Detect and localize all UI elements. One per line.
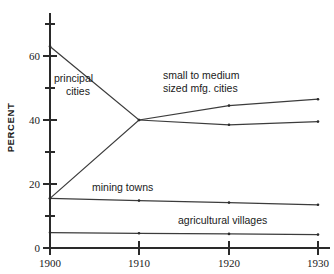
x-tick-label-1900: 1900 <box>26 258 74 269</box>
series-label-mfg-cities: small to medium sized mfg. cities <box>163 69 239 95</box>
y-tick-label-60: 60 <box>14 51 40 62</box>
series-label-principal-cities-line2: cities <box>54 85 90 98</box>
x-tick-label-1910: 1910 <box>115 258 163 269</box>
series-line-mining-towns <box>50 198 318 204</box>
series-label-principal-cities-line1: principal <box>54 72 93 84</box>
series-label-mfg-cities-line2: sized mfg. cities <box>163 82 238 94</box>
y-axis-title: PERCENT <box>5 96 16 160</box>
x-tick-label-1920: 1920 <box>205 258 253 269</box>
series-label-mining-towns: mining towns <box>92 181 153 194</box>
series-line-mfg-cities <box>50 99 318 198</box>
y-tick-label-20: 20 <box>14 179 40 190</box>
series-label-agricultural-villages: agricultural villages <box>178 214 267 227</box>
x-tick-label-1930: 1930 <box>294 258 334 269</box>
series-label-mfg-cities-line1: small to medium <box>163 69 239 81</box>
chart-plot-area <box>0 0 334 274</box>
y-tick-label-0: 0 <box>14 243 40 254</box>
series-line-agricultural-villages <box>50 233 318 235</box>
line-chart: PERCENT 0 20 40 60 1900 1910 1920 1930 p… <box>0 0 334 274</box>
series-label-principal-cities: principal cities <box>54 72 120 98</box>
y-tick-label-40: 40 <box>14 115 40 126</box>
